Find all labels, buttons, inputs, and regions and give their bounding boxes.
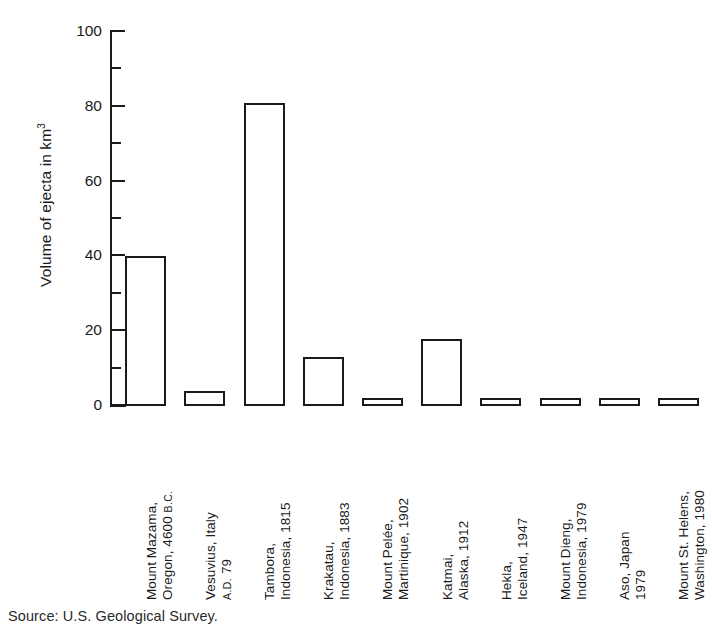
y-tick-label: 0 [42,397,102,413]
bar [658,398,699,406]
bar [480,398,521,406]
y-tick-label: 20 [42,322,102,338]
x-label-line-2: 1979 [633,531,649,600]
y-tick-label: 80 [42,98,102,114]
x-label-line-2: Indonesia, 1883 [337,502,353,600]
x-label-line-1: Mount Mazama, [144,502,159,600]
plot-area [110,32,702,405]
x-label-line-2: Washington, 1980 [692,490,708,600]
bar [421,339,462,406]
x-label-line-2: Martinique, 1902 [396,498,412,600]
x-label-line-2: A.D. 79 [218,512,235,600]
x-label-line-1: Vesuvius, Italy [203,512,218,600]
x-label-era: B.C. [161,490,173,512]
x-label-line-1: Mount Dieng, [558,519,573,601]
bar [125,256,166,406]
bar-chart-figure: Volume of ejecta in km3 020406080100 Mou… [0,0,712,636]
x-label-line-1: Mount St. Helens, [676,491,691,600]
x-label-era: A.D. [220,578,232,600]
x-label-line-1: Krakatau, [321,541,336,600]
bar [362,398,403,406]
x-label-line-2: Indonesia, 1979 [574,502,590,600]
bar [184,391,225,406]
source-note: Source: U.S. Geological Survey. [8,608,218,624]
bar [303,357,344,406]
y-tick-label: 100 [42,23,102,39]
x-axis-baseline-stub [110,405,126,407]
y-axis-title-text: Volume of ejecta in km [37,129,54,287]
x-label-line-1: Aso, Japan [617,531,632,600]
bar [599,398,640,406]
bar-series [110,32,702,406]
bar [244,103,285,406]
x-label-line-2: Oregon, 4600 B.C. [159,490,176,600]
bar [540,398,581,406]
x-label-line-1: Mount Pelée, [380,519,395,600]
y-axis-title-exponent: 3 [36,123,47,129]
y-tick-label: 60 [42,173,102,189]
x-axis-tick-labels: Mount Mazama,Oregon, 4600 B.C.Vesuvius, … [110,412,702,602]
x-label-line-2: Iceland, 1947 [514,518,530,600]
x-label-line-1: Hekla, [499,561,514,600]
x-label-line-1: Katmai, [440,554,455,600]
x-label-line-2: Alaska, 1912 [455,521,471,600]
x-label-line-2: Indonesia, 1815 [278,502,294,600]
y-tick-label: 40 [42,247,102,263]
x-label-line-1: Tambora, [262,543,277,600]
